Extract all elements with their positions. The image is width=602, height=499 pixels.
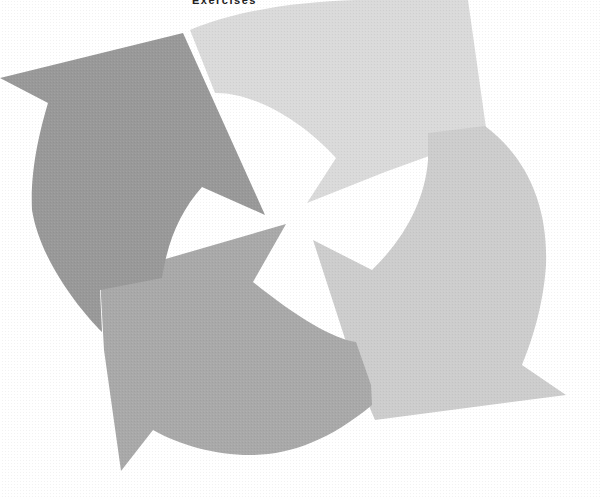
heading-exercises: Exercises (192, 0, 257, 6)
texture-overlay (0, 0, 602, 499)
cycle-diagram (0, 0, 602, 499)
